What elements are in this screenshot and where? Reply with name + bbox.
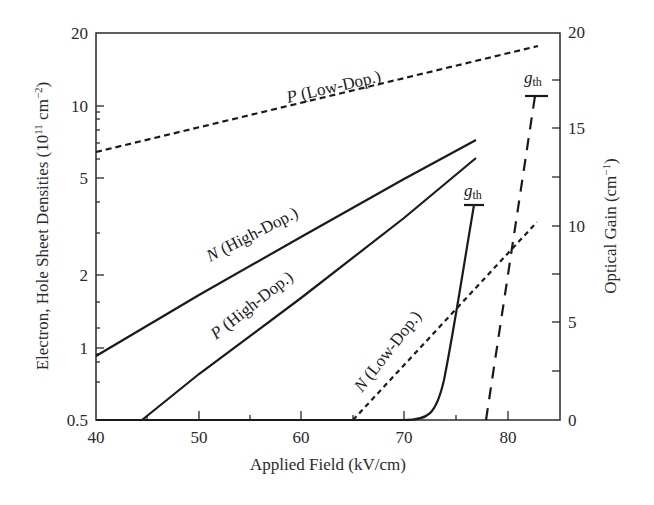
bottom-axis-tick-labels: 40 50 60 70 80 <box>88 428 517 447</box>
label-gth-low-dop: gth <box>524 68 542 89</box>
left-axis-tick-labels: 0.5 1 2 5 10 20 <box>67 24 88 430</box>
svg-text:40: 40 <box>88 428 105 447</box>
right-axis-tick-labels: 0 5 10 15 20 <box>568 23 585 430</box>
left-axis-ticks <box>96 106 104 382</box>
svg-text:20: 20 <box>71 24 88 43</box>
right-axis-ticks <box>552 80 560 371</box>
label-n-low-dop: N (Low-Dop.) <box>350 307 425 396</box>
svg-text:5: 5 <box>80 169 89 188</box>
svg-text:2: 2 <box>80 266 89 285</box>
bottom-axis-ticks <box>147 411 508 420</box>
svg-text:80: 80 <box>500 428 517 447</box>
svg-text:0: 0 <box>568 411 577 430</box>
sheet-density-gain-chart: 0.5 1 2 5 10 20 0 5 10 15 20 40 50 60 70… <box>0 0 654 505</box>
label-n-high-dop: N (High-Dop.) <box>202 203 301 266</box>
x-axis-title: Applied Field (kV/cm) <box>250 455 406 474</box>
curve-p-high-dop <box>142 158 476 420</box>
curve-gain-high-dop <box>96 205 474 420</box>
svg-text:1: 1 <box>80 339 89 358</box>
right-axis-title: Optical Gain (cm−1) <box>600 158 620 293</box>
label-p-low-dop: P (Low-Dop.) <box>284 67 383 107</box>
curve-n-low-dop <box>353 222 537 420</box>
svg-text:20: 20 <box>568 23 585 42</box>
curve-gain-low-dop <box>486 96 535 420</box>
svg-text:10: 10 <box>71 97 88 116</box>
label-gth-high-dop: gth <box>464 181 482 202</box>
label-p-high-dop: P (High-Dop.) <box>206 267 297 344</box>
svg-text:0.5: 0.5 <box>67 411 88 430</box>
svg-text:10: 10 <box>568 217 585 236</box>
left-axis-title: Electron, Hole Sheet Densities (1011 cm−… <box>32 82 52 371</box>
curves <box>96 46 548 420</box>
svg-text:60: 60 <box>293 428 310 447</box>
svg-text:5: 5 <box>568 313 577 332</box>
svg-text:70: 70 <box>396 428 413 447</box>
svg-text:15: 15 <box>568 119 585 138</box>
svg-text:50: 50 <box>191 428 208 447</box>
